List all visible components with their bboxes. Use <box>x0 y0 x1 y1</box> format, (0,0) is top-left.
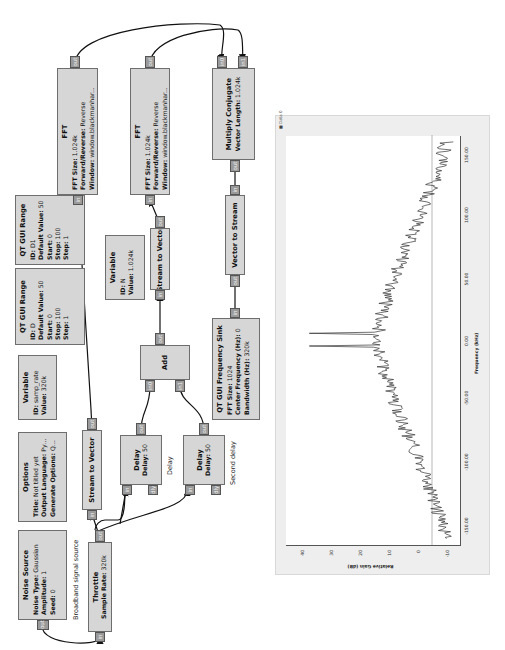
multiply-conjugate-block[interactable]: Multiply Conjugate Vector Length: 1.024k <box>212 68 255 160</box>
stream-to-vector-2-block[interactable]: Stream to Vector <box>150 228 170 290</box>
fft-2-in-port[interactable]: in <box>145 195 155 205</box>
variable-n-block[interactable]: Variable ID: N Value: 1.024k <box>105 235 145 300</box>
param-forward-reverse: Forward/Reverse: Reverse <box>79 73 87 190</box>
y-tick: -10 <box>445 550 450 570</box>
param-delay: Delay: 50 <box>141 444 149 476</box>
param-generate-options: Generate Options: QT GUI <box>49 437 57 517</box>
multiply-conjugate-out-port[interactable]: out <box>230 160 240 172</box>
vector-to-stream-out-port[interactable]: out <box>230 275 240 287</box>
fft-2-out-port[interactable]: out <box>145 56 155 68</box>
delay-1-in-port[interactable]: in <box>122 485 132 495</box>
stream-to-vector-1-out-port[interactable]: out <box>87 418 97 430</box>
block-title: Throttle <box>92 572 100 603</box>
x-tick: 0.00 <box>464 326 469 356</box>
flowgraph-canvas[interactable]: Noise Source Noise Type: Gaussian Amplit… <box>0 0 505 650</box>
block-title: Vector to Stream <box>231 202 239 267</box>
qt-gui-frequency-sink-in-port[interactable]: in <box>230 308 240 318</box>
add-in0-port[interactable]: in0 <box>145 380 155 392</box>
multiply-conjugate-in1-port[interactable]: in1 <box>238 56 248 68</box>
param-bandwidth: Bandwidth (Hz): 320k <box>243 323 251 415</box>
block-title: Noise Source <box>22 535 30 615</box>
frequency-sink-plot[interactable]: ■ Data 0 Relative Gain (dB) 40 30 20 10 … <box>275 115 490 575</box>
y-tick: 40 <box>300 550 305 570</box>
fft-1-block[interactable]: FFT FFT Size: 1.024k Forward/Reverse: Re… <box>57 68 98 195</box>
delay-2-out-port[interactable]: out <box>199 423 209 435</box>
delay-1-block[interactable]: Delay Delay: 50 <box>120 435 162 485</box>
param-window: Window: window.blackmanhar... <box>88 73 96 190</box>
plot-legend[interactable]: ■ Data 0 <box>278 111 283 129</box>
param-seed: Seed: 0 <box>49 535 57 615</box>
throttle-out-port[interactable]: out <box>95 530 105 542</box>
vector-to-stream-in-port[interactable]: in <box>230 185 240 195</box>
param-delay: Delay: 50 <box>204 444 212 476</box>
y-tick: 10 <box>387 550 392 570</box>
throttle-in-port[interactable]: in <box>95 632 105 642</box>
noise-source-out-port[interactable]: out <box>37 620 49 630</box>
delay-2-dly-port[interactable]: dly <box>211 485 221 495</box>
param-shift: Shift: Yes <box>169 73 170 190</box>
block-title: Stream to Vector <box>88 437 96 502</box>
qt-gui-frequency-sink-block[interactable]: QT GUI Frequency Sink FFT Size: 1024 Cen… <box>212 318 260 420</box>
param-window: Window: window.blackmanhar... <box>161 73 169 190</box>
stream-to-vector-2-in-port[interactable]: in <box>155 290 165 300</box>
block-title: QT GUI Range <box>19 200 27 260</box>
param-fft-size: FFT Size: 1.024k <box>71 73 79 190</box>
param-forward-reverse: Forward/Reverse: Reverse <box>152 73 160 190</box>
param-default-value: Default Value: 50 <box>37 273 45 340</box>
block-title: Delay <box>133 449 141 470</box>
y-tick: 30 <box>329 550 334 570</box>
multiply-conjugate-in0-port[interactable]: in0 <box>217 56 227 68</box>
block-title: Multiply Conjugate <box>225 78 233 150</box>
y-tick: 20 <box>358 550 363 570</box>
stream-to-vector-1-block[interactable]: Stream to Vector <box>82 430 102 510</box>
add-block[interactable]: Add <box>140 345 190 380</box>
delay-2-block[interactable]: Delay Delay: 50 <box>183 435 225 485</box>
param-step: Step: 1 <box>62 273 70 340</box>
block-title: Add <box>161 355 169 370</box>
param-output-language: Output Language: Python <box>40 437 48 517</box>
delay-1-out-port[interactable]: out <box>136 423 146 435</box>
param-id: ID: samp_rate <box>32 360 40 415</box>
delay-1-dly-port[interactable]: dly <box>148 485 158 495</box>
x-tick: 100.00 <box>464 200 469 230</box>
plot-canvas[interactable] <box>286 136 461 546</box>
block-title: FFT <box>134 73 142 190</box>
throttle-block[interactable]: Throttle Sample Rate: 320k <box>88 542 112 632</box>
param-default-value: Default Value: 50 <box>37 200 45 260</box>
fft-2-block[interactable]: FFT FFT Size: 1.024k Forward/Reverse: Re… <box>130 68 170 195</box>
x-axis-label: Frequency (kHz) <box>474 333 479 374</box>
stream-to-vector-2-out-port[interactable]: out <box>155 216 165 228</box>
comment-second-delay: Second delay <box>229 441 237 485</box>
x-tick: 150.00 <box>464 140 469 170</box>
param-start: Start: 0 <box>46 200 54 260</box>
noise-source-block[interactable]: Noise Source Noise Type: Gaussian Amplit… <box>18 530 67 620</box>
block-title: Variable <box>22 360 30 415</box>
block-title: QT GUI Frequency Sink <box>216 323 224 415</box>
block-title: FFT <box>61 73 69 190</box>
add-in1-port[interactable]: in1 <box>175 380 185 392</box>
param-value: Value: 320k <box>40 360 48 415</box>
stream-to-vector-1-in-port[interactable]: in <box>87 510 97 520</box>
add-out-port[interactable]: out <box>155 333 165 345</box>
qt-gui-range-d1-block[interactable]: QT GUI Range ID: D1 Default Value: 50 St… <box>15 195 85 265</box>
param-title: Title: Not titled yet <box>32 437 40 517</box>
delay-2-in-port[interactable]: in <box>185 485 195 495</box>
param-center-frequency: Center Frequency (Hz): 0 <box>234 323 242 415</box>
variable-samp-rate-block[interactable]: Variable ID: samp_rate Value: 320k <box>18 355 57 420</box>
block-title: Options <box>22 437 30 517</box>
block-title: Delay <box>196 449 204 470</box>
fft-1-in-port[interactable]: in <box>73 195 83 205</box>
param-sample-rate: Sample Rate: 320k <box>100 555 108 619</box>
param-id: ID: D <box>29 273 37 340</box>
param-fft-size: FFT Size: 1.024k <box>144 73 152 190</box>
x-tick: -150.00 <box>464 511 469 541</box>
options-block[interactable]: Options Title: Not titled yet Output Lan… <box>18 432 67 522</box>
param-vector-length: Vector Length: 1.024k <box>234 77 242 152</box>
fft-1-out-port[interactable]: out <box>70 56 80 68</box>
vector-to-stream-block[interactable]: Vector to Stream <box>225 195 245 275</box>
param-start: Start: 0 <box>46 273 54 340</box>
param-amplitude: Amplitude: 1 <box>40 535 48 615</box>
qt-gui-range-d-block[interactable]: QT GUI Range ID: D Default Value: 50 Sta… <box>15 268 85 345</box>
spectrum-trace <box>286 135 461 545</box>
param-stop: Stop: 100 <box>54 273 62 340</box>
